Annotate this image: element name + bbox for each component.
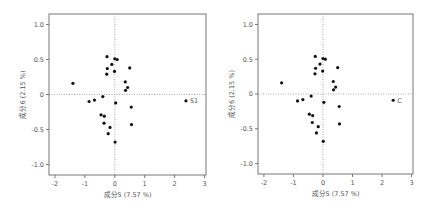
x-tick-label: 0 [113, 180, 117, 188]
data-point [130, 123, 133, 126]
data-point [124, 80, 127, 83]
y-tick-label: -0.5 [31, 126, 44, 134]
x-axis-label: 成分5 (7.57 %) [312, 189, 360, 198]
data-point [110, 63, 113, 66]
data-point [113, 141, 116, 144]
data-point [113, 70, 116, 73]
data-point [313, 72, 316, 75]
chart-svg: -2-10123成分5 (7.57 %)1.00.50-0.5-1.0成分6 (… [0, 0, 215, 214]
y-tick-label: 1.0 [243, 21, 253, 29]
y-tick-label: 0 [40, 91, 44, 99]
data-point [126, 86, 129, 89]
data-points [280, 55, 395, 143]
y-tick-label: 0.5 [243, 56, 253, 64]
data-point [116, 58, 119, 61]
data-point [103, 115, 106, 118]
data-point [87, 100, 90, 103]
data-point [392, 99, 395, 102]
data-point [321, 69, 324, 72]
data-points [71, 55, 187, 144]
y-axis: 1.00.50-0.5-1.0成分6 (2.15 %) [18, 21, 49, 169]
data-point [318, 62, 321, 65]
x-axis-label: 成分5 (7.57 %) [104, 190, 152, 199]
x-tick-label: 3 [409, 179, 413, 187]
data-point [322, 101, 325, 104]
reference-lines [258, 14, 413, 174]
data-point [317, 125, 320, 128]
x-tick-label: -2 [52, 180, 58, 188]
data-point [130, 106, 133, 109]
data-point [314, 67, 317, 70]
data-point [296, 99, 299, 102]
x-tick-label: 2 [380, 179, 384, 187]
data-point [124, 89, 127, 92]
data-point [108, 126, 111, 129]
data-point [322, 140, 325, 143]
x-tick-label: -2 [261, 179, 267, 187]
y-tick-label: 0 [249, 90, 253, 98]
point-annotation: S1 [190, 97, 198, 105]
y-axis-label: 成分6 (2.15 %) [227, 70, 236, 118]
y-tick-label: -1.0 [31, 161, 44, 169]
data-point [93, 99, 96, 102]
y-tick-label: -1.0 [240, 160, 253, 168]
x-axis: -2-10123成分5 (7.57 %) [261, 174, 414, 198]
data-point [311, 114, 314, 117]
data-point [128, 66, 131, 69]
data-point [101, 95, 104, 98]
data-point [336, 66, 339, 69]
x-tick-label: 1 [143, 180, 147, 188]
data-point [338, 105, 341, 108]
data-point [105, 73, 108, 76]
x-tick-label: -1 [290, 179, 296, 187]
data-point [107, 132, 110, 135]
data-point [301, 98, 304, 101]
x-axis: -2-10123成分5 (7.57 %) [52, 175, 207, 199]
data-point [314, 55, 317, 58]
y-tick-label: 0.5 [34, 56, 44, 64]
chart-svg: -2-10123成分5 (7.57 %)1.00.50-0.5-1.0成分6 (… [215, 0, 430, 214]
point-annotation: C [397, 97, 402, 105]
y-tick-label: -0.5 [240, 125, 253, 133]
reference-lines [49, 14, 206, 175]
data-point [308, 113, 311, 116]
data-point [280, 81, 283, 84]
data-point [184, 99, 187, 102]
data-point [311, 121, 314, 124]
data-point [334, 85, 337, 88]
data-point [71, 82, 74, 85]
data-point [106, 67, 109, 70]
x-tick-label: 1 [350, 179, 354, 187]
data-point [338, 122, 341, 125]
x-tick-label: 0 [321, 179, 325, 187]
scatter-plot-s1: -2-10123成分5 (7.57 %)1.00.50-0.5-1.0成分6 (… [0, 0, 215, 214]
x-tick-label: 3 [202, 180, 206, 188]
y-tick-label: 1.0 [34, 21, 44, 29]
data-point [114, 101, 117, 104]
data-point [310, 94, 313, 97]
scatter-plot-c: -2-10123成分5 (7.57 %)1.00.50-0.5-1.0成分6 (… [215, 0, 430, 214]
data-point [99, 113, 102, 116]
y-axis-label: 成分6 (2.15 %) [18, 71, 27, 119]
data-point [102, 122, 105, 125]
data-point [332, 88, 335, 91]
data-point [332, 80, 335, 83]
data-point [315, 131, 318, 134]
x-tick-label: -1 [82, 180, 88, 188]
y-axis: 1.00.50-0.5-1.0成分6 (2.15 %) [227, 21, 258, 168]
x-tick-label: 2 [173, 180, 177, 188]
data-point [105, 55, 108, 58]
data-point [324, 58, 327, 61]
